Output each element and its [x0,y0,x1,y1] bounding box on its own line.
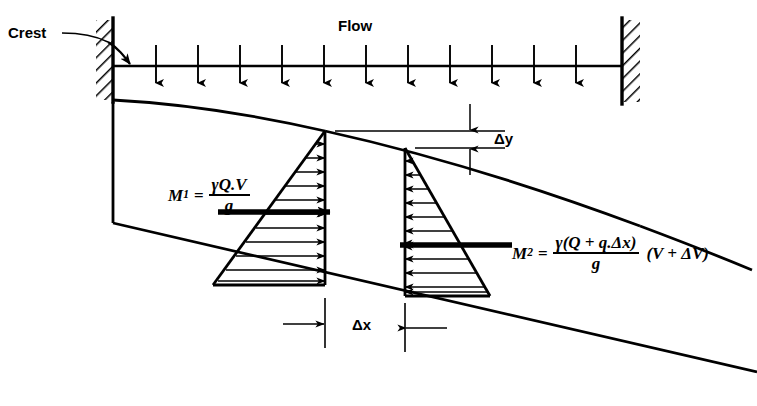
m2-denominator: g [589,254,604,272]
m2-numerator: γ(Q + q.Δx) [553,234,640,252]
m1-numerator: γQ.V [209,176,250,194]
m2-velocity-term: (V + ΔV) [646,245,709,262]
flow-label: Flow [338,18,372,33]
delta-x-label: Δx [352,317,371,332]
m1-fraction: γQ.V g [209,176,250,214]
m1-symbol: M [168,187,183,204]
m1-denominator: g [222,196,237,214]
m1-equals: = [194,187,204,204]
side-channel-spillway-diagram: Crest Flow Δy Δx M1 = γQ.V g M2 = γ(Q + … [0,0,757,406]
diagram-canvas [0,0,757,406]
m2-fraction: γ(Q + q.Δx) g [553,234,640,272]
delta-y-label: Δy [494,131,513,146]
right-pressure-distribution-arrows [405,161,489,292]
momentum-equation-m2: M2 = γ(Q + q.Δx) g (V + ΔV) [512,234,709,272]
m2-symbol: M [512,245,527,262]
m2-subscript: 2 [527,247,533,259]
inflow-arrows [156,45,576,83]
momentum-equation-m1: M1 = γQ.V g [168,176,250,214]
left-abutment-wall [96,18,113,102]
m2-equals: = [538,245,548,262]
m1-subscript: 1 [183,189,189,201]
right-abutment-wall [622,18,640,104]
crest-label: Crest [8,25,46,40]
